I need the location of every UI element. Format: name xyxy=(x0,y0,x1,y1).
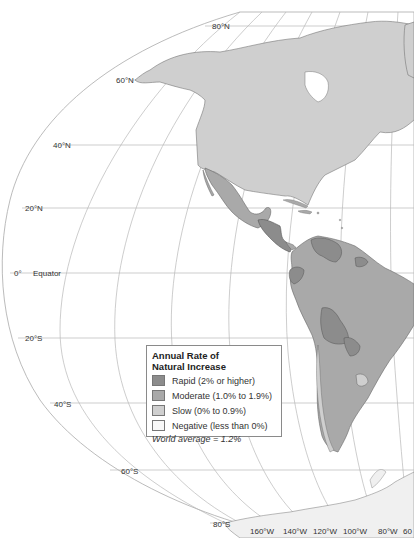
label-40n: 40°N xyxy=(53,141,71,150)
legend-item-negative: Negative (less than 0%) xyxy=(152,419,276,432)
legend-title-line2: Natural Increase xyxy=(152,361,276,372)
swatch-rapid xyxy=(152,375,165,386)
label-equator-degree: 0° xyxy=(14,269,22,278)
legend-item-rapid: Rapid (2% or higher) xyxy=(152,374,276,387)
label-120w: 120°W xyxy=(313,527,337,536)
label-100w: 100°W xyxy=(343,527,367,536)
legend-label-slow: Slow (0% to 0.9%) xyxy=(172,406,246,416)
legend: Annual Rate of Natural Increase Rapid (2… xyxy=(146,345,282,437)
label-140w: 140°W xyxy=(283,527,307,536)
legend-world-average: World average = 1.2% xyxy=(152,434,276,444)
label-80w: 80°W xyxy=(378,527,398,536)
legend-label-negative: Negative (less than 0%) xyxy=(172,421,268,431)
legend-title-line1: Annual Rate of xyxy=(152,350,276,361)
label-80n: 80°N xyxy=(212,22,230,31)
americas-map xyxy=(0,0,414,538)
label-60s: 60°S xyxy=(121,467,138,476)
legend-item-moderate: Moderate (1.0% to 1.9%) xyxy=(152,389,276,402)
label-60w: 60 xyxy=(403,527,412,536)
label-80s: 80°S xyxy=(213,520,230,529)
swatch-negative xyxy=(152,420,165,431)
label-40s: 40°S xyxy=(54,400,71,409)
legend-label-rapid: Rapid (2% or higher) xyxy=(172,376,255,386)
label-60n: 60°N xyxy=(116,76,134,85)
label-20s: 20°S xyxy=(25,334,42,343)
label-20n: 20°N xyxy=(25,204,43,213)
label-160w: 160°W xyxy=(250,527,274,536)
legend-label-moderate: Moderate (1.0% to 1.9%) xyxy=(172,391,272,401)
swatch-moderate xyxy=(152,390,165,401)
swatch-slow xyxy=(152,405,165,416)
label-equator: Equator xyxy=(33,269,61,278)
legend-item-slow: Slow (0% to 0.9%) xyxy=(152,404,276,417)
